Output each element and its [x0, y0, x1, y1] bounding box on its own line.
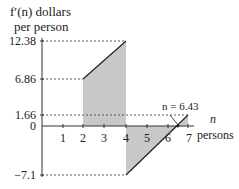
x-tick-4: 4: [120, 132, 132, 144]
x-tick-5: 5: [141, 132, 153, 144]
x-tick-1: 1: [57, 132, 69, 144]
x-tick-6: 6: [162, 132, 174, 144]
x-tick-2: 2: [77, 132, 89, 144]
y-tick-neg-7-1: −7.1: [0, 169, 36, 181]
zero-crossing-dot: [177, 125, 180, 128]
y-axis-label-line2: per person: [14, 20, 69, 33]
annotation-n-6-43: n = 6.43: [162, 101, 198, 112]
x-tick-3: 3: [98, 132, 110, 144]
y-tick-6-86: 6.86: [0, 73, 36, 85]
y-tick-0: 0: [0, 120, 36, 132]
x-axis-label-line2: persons: [197, 129, 234, 141]
y-tick-12-38: 12.38: [0, 35, 36, 47]
x-axis-label-line1: n: [210, 113, 216, 125]
y-axis-label-line1: f′(n) dollars: [10, 5, 71, 18]
shaded-region-positive: [83, 41, 126, 126]
x-tick-7: 7: [183, 132, 195, 144]
annotation-pointer: [170, 115, 178, 125]
